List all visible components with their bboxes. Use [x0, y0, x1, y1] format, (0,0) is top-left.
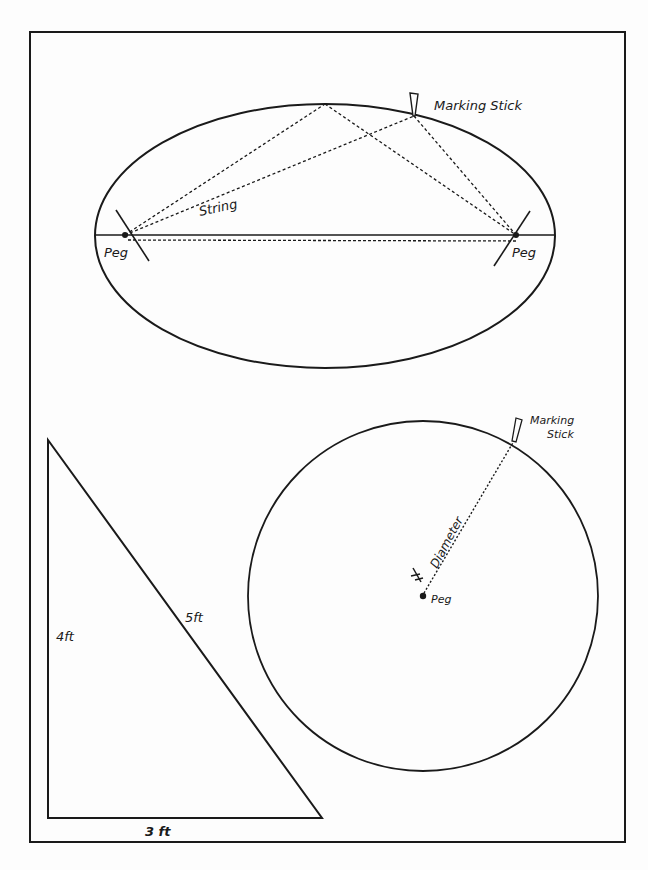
- peg-right-dot: [513, 232, 519, 238]
- marking-label-line1: Marking: [530, 414, 574, 427]
- marking-stick-icon: [410, 93, 418, 116]
- triangle-diagram: 4ft 5ft 3 ft: [48, 440, 322, 839]
- marking-stick-icon: [512, 418, 522, 442]
- peg-left-label: Peg: [104, 245, 128, 260]
- peg-center-dot: [420, 593, 426, 599]
- diameter-label: Diameter: [427, 513, 466, 570]
- peg-right-label: Peg: [512, 245, 536, 260]
- string-segment: [325, 104, 516, 235]
- string-label: String: [198, 196, 239, 219]
- right-triangle: [48, 440, 322, 818]
- hypotenuse-5ft-label: 5ft: [185, 610, 204, 625]
- peg-label: Peg: [431, 593, 451, 606]
- peg-left-dot: [122, 232, 128, 238]
- figure-canvas: Marking Stick String Peg Peg 4ft 5ft 3 f…: [0, 0, 648, 870]
- ellipse-outline: [95, 104, 555, 368]
- outer-frame: [30, 32, 625, 842]
- ellipse-diagram: Marking Stick String Peg Peg: [95, 93, 555, 368]
- marking-stick-label: Marking Stick: [434, 98, 522, 113]
- marking-label-line2: Stick: [547, 428, 574, 441]
- circle-diagram: Marking Stick Diameter Peg: [248, 414, 598, 771]
- string-segment: [125, 104, 325, 235]
- string-segment: [125, 116, 414, 235]
- string-segment: [414, 116, 516, 235]
- string-knot-icon: [411, 568, 423, 582]
- string-baseline: [128, 240, 516, 241]
- base-3ft-label: 3 ft: [145, 824, 171, 839]
- side-4ft-label: 4ft: [56, 629, 75, 644]
